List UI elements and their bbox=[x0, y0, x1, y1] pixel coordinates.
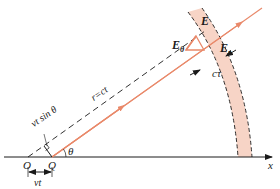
label-vt: vt bbox=[34, 178, 41, 188]
label-E: E bbox=[201, 15, 209, 27]
label-O: O bbox=[23, 160, 31, 171]
diagram-canvas bbox=[0, 0, 280, 189]
shell-band bbox=[188, 8, 252, 157]
theta-arc bbox=[64, 149, 67, 157]
label-Q: Q bbox=[48, 160, 56, 171]
label-theta: θ bbox=[68, 146, 73, 157]
label-E-theta: Eθ bbox=[172, 39, 184, 51]
label-E-r: Er bbox=[220, 42, 231, 54]
label-c-tau: cτ bbox=[212, 68, 221, 79]
perpendicular-line bbox=[44, 146, 52, 157]
label-x-axis: x bbox=[268, 160, 273, 171]
radiation-field-diagram: E Eθ Er cτ r=ct vt sin θ θ O Q vt x bbox=[0, 0, 280, 189]
ctau-arrow-left bbox=[190, 70, 200, 75]
